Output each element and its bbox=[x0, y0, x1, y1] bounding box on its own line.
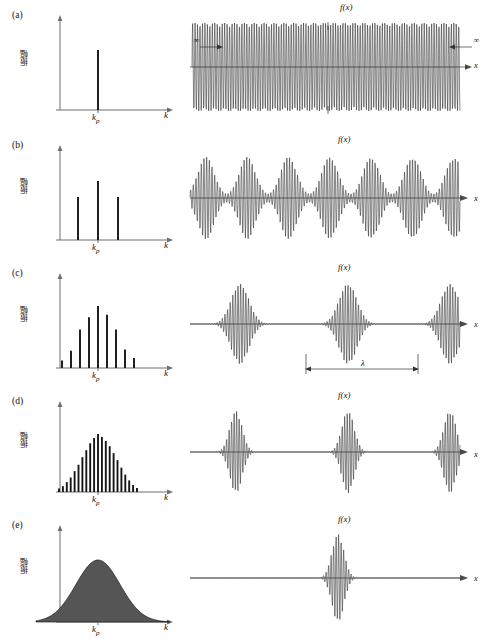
y-axis-label-c: 振幅 bbox=[19, 306, 30, 322]
x-axis-label-b: x bbox=[474, 193, 478, 203]
function-label-a: f(x) bbox=[340, 2, 353, 12]
x-axis-label-c: x bbox=[474, 319, 478, 329]
panel-label-a: (a) bbox=[12, 10, 23, 20]
spectrum-plot-c bbox=[30, 272, 180, 376]
spectrum-plot-a bbox=[30, 14, 180, 118]
wave-packet-figure: (a) 振幅 kp k f(x) ∞ ∞ x bbox=[0, 0, 482, 639]
spectrum-plot-b bbox=[30, 144, 180, 248]
x-axis-label-d: x bbox=[474, 449, 478, 459]
waveform-plot-d bbox=[188, 402, 482, 502]
x-axis-label-e: x bbox=[474, 573, 478, 583]
y-axis-label-b: 振幅 bbox=[19, 178, 30, 194]
k-peak-tick-b: kp bbox=[92, 242, 100, 255]
y-axis-label-a: 振幅 bbox=[19, 50, 30, 66]
panel-e: (e) 振幅 kp k f(x) x bbox=[0, 510, 482, 639]
panel-label-e: (e) bbox=[12, 520, 23, 530]
function-label-c: f(x) bbox=[338, 262, 351, 272]
infinity-label-right-a: ∞ bbox=[472, 36, 481, 45]
infinity-arrow-right-a bbox=[448, 42, 472, 52]
infinity-arrow-left-a bbox=[200, 42, 224, 52]
function-label-e: f(x) bbox=[338, 514, 351, 524]
waveform-plot-b bbox=[188, 146, 482, 250]
y-axis-label-d: 振幅 bbox=[19, 432, 30, 448]
panel-c: (c) 振幅 kp k f(x) x λ bbox=[0, 258, 482, 388]
waveform-plot-a bbox=[188, 14, 482, 118]
function-label-d: f(x) bbox=[338, 390, 351, 400]
k-axis-label-d: k bbox=[164, 492, 168, 502]
k-peak-tick-e: kp bbox=[92, 624, 100, 637]
k-axis-label-a: k bbox=[164, 110, 168, 120]
x-axis-label-a: x bbox=[474, 60, 478, 70]
panel-d: (d) 振幅 kp k f(x) x bbox=[0, 388, 482, 510]
panel-b: (b) 振幅 kp k f(x) x bbox=[0, 130, 482, 258]
spectrum-plot-e bbox=[30, 524, 180, 630]
waveform-plot-e bbox=[188, 526, 482, 630]
k-peak-tick-a: kp bbox=[92, 112, 100, 125]
k-peak-tick-c: kp bbox=[92, 370, 100, 383]
spectrum-plot-d bbox=[30, 400, 180, 500]
k-peak-tick-d: kp bbox=[92, 494, 100, 507]
panel-label-d: (d) bbox=[12, 396, 23, 406]
panel-label-b: (b) bbox=[12, 140, 23, 150]
panel-a: (a) 振幅 kp k f(x) ∞ ∞ x bbox=[0, 0, 482, 130]
panel-label-c: (c) bbox=[12, 268, 23, 278]
function-label-b: f(x) bbox=[338, 134, 351, 144]
waveform-trace bbox=[190, 535, 460, 620]
k-axis-label-b: k bbox=[164, 240, 168, 250]
k-axis-label-e: k bbox=[164, 622, 168, 632]
wavelength-label-c: λ bbox=[358, 358, 368, 368]
k-axis-label-c: k bbox=[164, 368, 168, 378]
y-axis-label-e: 振幅 bbox=[19, 558, 30, 574]
